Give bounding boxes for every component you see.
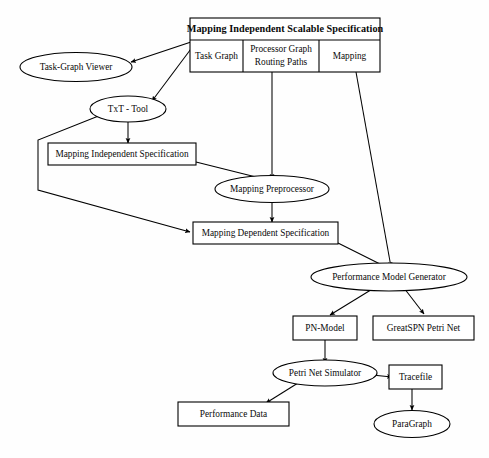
node-mapping-preprocessor[interactable]: Mapping Preprocessor xyxy=(215,176,329,203)
mapping-preprocessor-label: Mapping Preprocessor xyxy=(230,184,315,194)
spec-cell-processor-graph-label-line2: Routing Paths xyxy=(255,57,308,67)
node-performance-data[interactable]: Performance Data xyxy=(178,402,289,426)
spec-cell-task-graph-label: Task Graph xyxy=(195,51,238,61)
petri-net-simulator-label: Petri Net Simulator xyxy=(289,368,362,378)
edge-performance-model-generator-to-pn-model xyxy=(330,288,374,315)
spec-box[interactable]: Mapping Independent Scalable Specificati… xyxy=(187,18,384,72)
paragraph-label: ParaGraph xyxy=(392,419,432,429)
node-tracefile[interactable]: Tracefile xyxy=(389,365,442,389)
node-mapping-dependent-specification[interactable]: Mapping Dependent Specification xyxy=(193,222,338,244)
task-graph-viewer-label: Task-Graph Viewer xyxy=(40,62,114,72)
edge-txt-tool-to-mapping-dependent-specification xyxy=(38,115,190,232)
greatspn-petri-net-label: GreatSPN Petri Net xyxy=(387,323,461,333)
performance-data-label: Performance Data xyxy=(200,409,267,419)
pn-model-label: PN-Model xyxy=(305,323,345,333)
node-txt-tool[interactable]: TxT - Tool xyxy=(90,96,166,122)
edge-petri-net-simulator-to-performance-data xyxy=(266,383,298,403)
flow-diagram: Mapping Independent Scalable Specificati… xyxy=(0,0,489,458)
mapping-dependent-specification-label: Mapping Dependent Specification xyxy=(202,228,330,238)
edge-task-graph-to-txt-tool xyxy=(152,44,195,102)
performance-model-generator-label: Performance Model Generator xyxy=(332,272,446,282)
node-paragraph[interactable]: ParaGraph xyxy=(374,411,450,438)
edge-mapping-to-performance-model-generator xyxy=(356,72,391,267)
tracefile-label: Tracefile xyxy=(399,372,432,382)
node-mapping-independent-specification[interactable]: Mapping Independent Specification xyxy=(48,143,196,165)
edge-performance-model-generator-to-greatspn-petri-net xyxy=(404,288,424,314)
txt-tool-label: TxT - Tool xyxy=(108,104,149,114)
spec-cell-processor-graph-label-line1: Processor Graph xyxy=(250,44,312,54)
mapping-independent-specification-label: Mapping Independent Specification xyxy=(55,149,189,159)
node-pn-model[interactable]: PN-Model xyxy=(293,316,357,340)
spec-box-header-label: Mapping Independent Scalable Specificati… xyxy=(187,23,384,34)
node-petri-net-simulator[interactable]: Petri Net Simulator xyxy=(273,360,377,386)
node-task-graph-viewer[interactable]: Task-Graph Viewer xyxy=(20,53,132,82)
spec-cell-mapping-label: Mapping xyxy=(333,51,367,61)
node-performance-model-generator[interactable]: Performance Model Generator xyxy=(311,263,467,291)
diagram-canvas: Mapping Independent Scalable Specificati… xyxy=(0,0,489,458)
node-greatspn-petri-net[interactable]: GreatSPN Petri Net xyxy=(373,316,474,340)
